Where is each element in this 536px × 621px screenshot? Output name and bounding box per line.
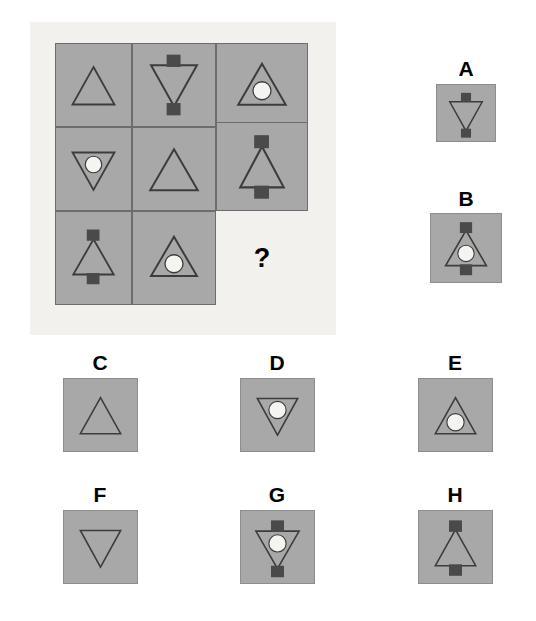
figure-triangle-down-circle bbox=[241, 379, 314, 451]
matrix-cell-2-3[interactable] bbox=[216, 122, 308, 211]
option-a-box[interactable] bbox=[436, 84, 496, 142]
option-e[interactable]: E bbox=[400, 352, 510, 467]
matrix-cell-3-2[interactable] bbox=[132, 211, 216, 305]
figure-triangle-up bbox=[64, 379, 137, 451]
matrix-cell-2-1[interactable] bbox=[55, 127, 132, 211]
matrix-cell-1-3[interactable] bbox=[216, 43, 308, 127]
matrix-cell-2-2[interactable] bbox=[132, 127, 216, 211]
question-mark: ? bbox=[216, 211, 308, 305]
figure-triangle-up-two-squares bbox=[56, 212, 131, 304]
option-f-box[interactable] bbox=[63, 510, 138, 584]
option-f-label: F bbox=[45, 484, 155, 505]
option-h-label: H bbox=[400, 484, 510, 505]
figure-triangle-down-two-squares bbox=[133, 44, 215, 126]
figure-triangle-down-circle bbox=[56, 128, 131, 210]
puzzle-stage: ? A B C bbox=[0, 0, 536, 621]
option-d-box[interactable] bbox=[240, 378, 315, 452]
figure-triangle-up-circle bbox=[419, 379, 492, 451]
option-e-label: E bbox=[400, 352, 510, 373]
figure-triangle-up bbox=[133, 128, 215, 210]
option-c[interactable]: C bbox=[45, 352, 155, 467]
option-h[interactable]: H bbox=[400, 484, 510, 602]
option-e-box[interactable] bbox=[418, 378, 493, 452]
matrix-cell-1-2[interactable] bbox=[132, 43, 216, 127]
option-h-box[interactable] bbox=[418, 510, 493, 584]
figure-triangle-down bbox=[64, 511, 137, 583]
figure-triangle-up bbox=[56, 44, 131, 126]
matrix-grid: ? bbox=[55, 43, 308, 305]
matrix-cell-3-3-missing[interactable]: ? bbox=[216, 211, 308, 305]
matrix-panel: ? bbox=[30, 22, 336, 335]
figure-triangle-up-circle bbox=[133, 212, 215, 304]
matrix-cell-1-1[interactable] bbox=[55, 43, 132, 127]
figure-triangle-up-two-squares bbox=[217, 123, 307, 210]
option-c-label: C bbox=[45, 352, 155, 373]
option-g-box[interactable] bbox=[240, 510, 315, 584]
figure-triangle-up-circle bbox=[217, 44, 307, 126]
option-a[interactable]: A bbox=[416, 58, 516, 134]
option-b-label: B bbox=[416, 188, 516, 209]
option-b-box[interactable] bbox=[430, 213, 502, 283]
option-g[interactable]: G bbox=[222, 484, 332, 602]
figure-triangle-up-two-squares bbox=[419, 511, 492, 583]
option-d[interactable]: D bbox=[222, 352, 332, 467]
option-f[interactable]: F bbox=[45, 484, 155, 602]
option-c-box[interactable] bbox=[63, 378, 138, 452]
figure-triangle-down-two-squares bbox=[437, 85, 495, 141]
option-b[interactable]: B bbox=[416, 188, 516, 298]
figure-triangle-up-circle-two-squares bbox=[431, 214, 501, 282]
matrix-cell-3-1[interactable] bbox=[55, 211, 132, 305]
figure-triangle-down-circle-two-squares bbox=[241, 511, 314, 583]
option-a-label: A bbox=[416, 58, 516, 79]
option-d-label: D bbox=[222, 352, 332, 373]
option-g-label: G bbox=[222, 484, 332, 505]
